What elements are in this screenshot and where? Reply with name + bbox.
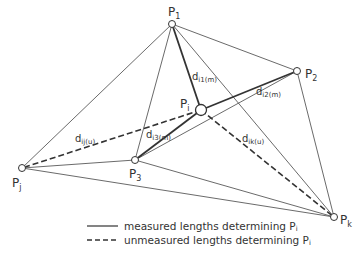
point-p2-marker [294,68,301,75]
label-pi: Pi [180,97,189,113]
line-p1-p2 [172,24,297,71]
label-d-i3: di3(m) [146,129,171,142]
point-labels: P1 P2 P3 Pi Pj Pk [12,5,352,229]
line-pi-pk [201,110,334,217]
line-pj-p3 [22,160,135,168]
line-pi-pj [22,110,201,168]
label-pj: Pj [12,176,21,192]
point-p1-marker [169,21,176,28]
label-d-i2: di2(m) [256,86,281,99]
line-p3-pk [135,160,334,217]
point-pk-marker [331,214,338,221]
line-p1-pj [22,24,172,168]
point-pj-marker [19,165,26,172]
legend-unmeasured-text: unmeasured lengths determining Pi [124,234,311,247]
label-p1: P1 [168,5,180,21]
trilateration-diagram: P1 P2 P3 Pi Pj Pk di1(m) di2(m) di3(m) d… [0,0,363,259]
label-p2: P2 [305,67,317,83]
legend: measured lengths determining Pi unmeasur… [87,220,311,247]
label-pk: Pk [340,213,352,229]
line-p2-p3 [135,71,297,160]
label-d-ik: dik(u) [242,133,265,146]
point-p3-marker [132,157,139,164]
point-markers [19,21,338,221]
line-pj-pk [22,168,334,217]
network-lines [22,24,334,217]
legend-measured-text: measured lengths determining Pi [124,220,298,233]
label-p3: P3 [129,167,141,183]
unmeasured-lines [22,110,334,217]
label-d-ij: dij(u) [75,133,95,146]
point-pi-marker [196,105,207,116]
distance-labels: di1(m) di2(m) di3(m) dij(u) dik(u) [75,71,281,146]
